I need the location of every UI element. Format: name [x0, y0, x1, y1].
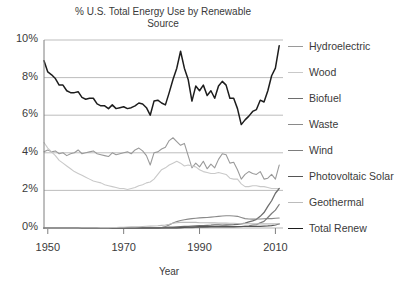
legend-item-label: Total Renew: [309, 222, 367, 234]
legend-line-swatch: [288, 228, 303, 229]
y-axis-tick-label: 2%: [4, 182, 38, 194]
series-lines: [44, 46, 279, 228]
x-axis-title: Year: [44, 266, 294, 277]
series-line-wind: [44, 205, 279, 229]
chart-figure: % U.S. Total Energy Use by Renewable Sou…: [0, 0, 413, 292]
y-axis-tick-label: 6%: [4, 107, 38, 119]
legend-item-biofuel[interactable]: Biofuel: [288, 85, 412, 111]
gridlines: [44, 40, 283, 228]
legend-line-swatch: [288, 98, 303, 99]
legend-item-waste[interactable]: Waste: [288, 111, 412, 137]
legend-item-label: Biofuel: [309, 92, 341, 104]
x-axis-tick-label: 1950: [28, 241, 68, 253]
series-line-biofuel: [44, 189, 279, 228]
legend-line-swatch: [288, 176, 303, 177]
x-axis-tick-label: 1990: [180, 241, 220, 253]
legend-item-label: Geothermal: [309, 196, 364, 208]
legend-line-swatch: [288, 150, 303, 151]
legend-item-label: Photovoltaic Solar: [309, 170, 394, 182]
legend-item-label: Hydroelectric: [309, 40, 370, 52]
x-axis-ticks: [48, 228, 276, 234]
legend-item-label: Waste: [309, 118, 338, 130]
legend-item-label: Wood: [309, 66, 336, 78]
y-axis-tick-label: 8%: [4, 70, 38, 82]
legend-line-swatch: [288, 72, 303, 73]
legend-item-photovoltaic-solar[interactable]: Photovoltaic Solar: [288, 163, 412, 189]
chart-legend: HydroelectricWoodBiofuelWasteWindPhotovo…: [288, 33, 412, 241]
x-axis-tick-label: 2010: [255, 241, 295, 253]
legend-line-swatch: [288, 124, 303, 125]
legend-item-total-renew[interactable]: Total Renew: [288, 215, 412, 241]
y-axis-tick-label: 4%: [4, 145, 38, 157]
legend-item-wood[interactable]: Wood: [288, 59, 412, 85]
legend-item-geothermal[interactable]: Geothermal: [288, 189, 412, 215]
legend-line-swatch: [288, 46, 303, 47]
legend-line-swatch: [288, 202, 303, 203]
series-line-total-renew: [44, 46, 279, 125]
legend-item-label: Wind: [309, 144, 333, 156]
legend-item-hydroelectric[interactable]: Hydroelectric: [288, 33, 412, 59]
legend-item-wind[interactable]: Wind: [288, 137, 412, 163]
y-axis-tick-label: 10%: [4, 32, 38, 44]
y-axis-tick-label: 0%: [4, 220, 38, 232]
series-line-hydroelectric: [44, 138, 279, 179]
x-axis-tick-label: 1970: [104, 241, 144, 253]
